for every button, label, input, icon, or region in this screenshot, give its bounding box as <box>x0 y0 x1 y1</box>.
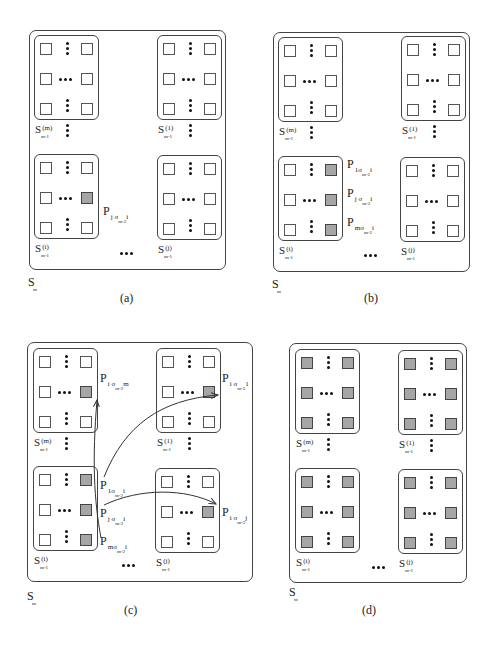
arrow-layer <box>0 0 492 649</box>
arrow-j-to-bottom-right <box>104 492 216 505</box>
arrow-1-to-top-right <box>104 395 218 477</box>
arrow-m-to-top-left <box>94 400 101 538</box>
